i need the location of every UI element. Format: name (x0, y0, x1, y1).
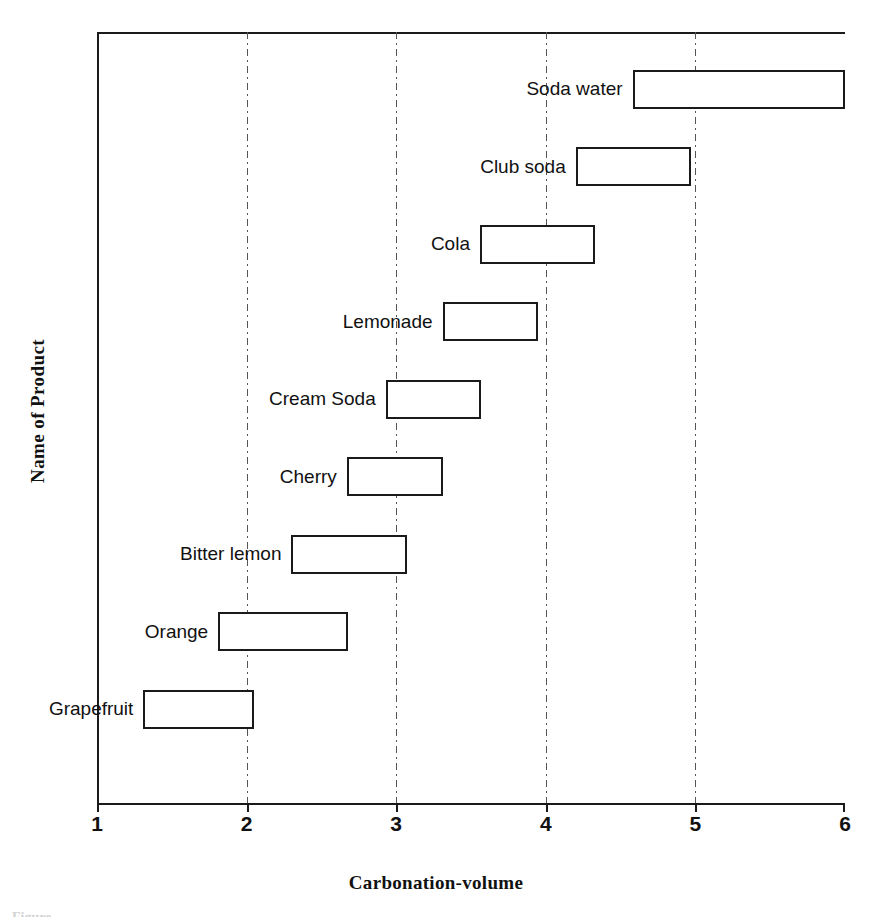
x-axis-title: Carbonation-volume (0, 872, 872, 894)
category-label: Lemonade (0, 311, 433, 333)
range-box (480, 225, 595, 264)
category-label: Orange (0, 621, 208, 643)
plot-area (97, 32, 845, 805)
clipped-figure-caption: Figure (12, 910, 51, 917)
gridline-3 (396, 32, 397, 805)
axis-line-left (97, 32, 99, 805)
range-box (576, 147, 691, 186)
category-label: Bitter lemon (0, 543, 281, 565)
tick-mark-6 (843, 803, 845, 812)
gridline-5 (695, 32, 696, 805)
x-tick-label-6: 6 (825, 812, 865, 836)
category-label: Cream Soda (0, 388, 376, 410)
range-box (347, 457, 443, 496)
range-box (386, 380, 482, 419)
tick-mark-2 (247, 803, 249, 812)
x-tick-label-2: 2 (227, 812, 267, 836)
tick-mark-5 (695, 803, 697, 812)
category-label: Cherry (0, 466, 337, 488)
axis-line-top (97, 32, 845, 34)
x-tick-label-4: 4 (526, 812, 566, 836)
tick-mark-3 (396, 803, 398, 812)
x-tick-label-3: 3 (376, 812, 416, 836)
x-tick-label-1: 1 (77, 812, 117, 836)
category-label: Club soda (0, 156, 566, 178)
category-label: Grapefruit (0, 698, 133, 720)
range-box (633, 70, 845, 109)
range-box (443, 302, 539, 341)
x-tick-label-5: 5 (675, 812, 715, 836)
range-box (218, 612, 348, 651)
category-label: Cola (0, 233, 470, 255)
category-label: Soda water (0, 78, 623, 100)
range-box (143, 690, 254, 729)
x-axis-line (97, 803, 845, 805)
tick-mark-1 (97, 803, 99, 812)
tick-mark-4 (546, 803, 548, 812)
gridline-4 (546, 32, 547, 805)
carbonation-range-chart: Name of Product 123456 Soda waterClub so… (0, 0, 872, 917)
range-box (291, 535, 406, 574)
